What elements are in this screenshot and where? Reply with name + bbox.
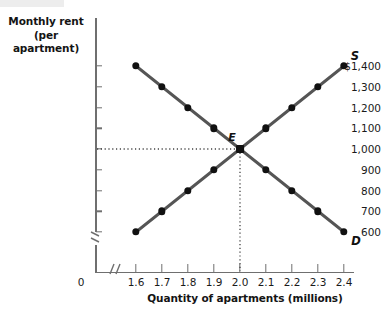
y-tick-mark: [96, 107, 102, 108]
supply-demand-chart-figure: Monthly rent (per apartment) $1,4001,300…: [0, 0, 381, 323]
y-axis-title: Monthly rent (per apartment): [0, 15, 92, 56]
y-tick-label: 700: [295, 205, 381, 217]
y-tick-mark: [96, 169, 102, 170]
x-tick-mark: [135, 264, 136, 272]
x-tick-label: 2.4: [324, 276, 364, 288]
y-tick-label: 1,100: [295, 122, 381, 134]
x-tick-mark: [213, 264, 214, 272]
equilibrium-point-marker: [236, 145, 244, 153]
x-axis-line: [95, 272, 354, 274]
y-axis-title-line1: Monthly rent: [0, 15, 92, 29]
y-tick-mark: [96, 86, 102, 87]
y-tick-label: 1,300: [295, 81, 381, 93]
data-point-d: [158, 83, 165, 90]
x-tick-mark: [291, 264, 292, 272]
equilibrium-guide-lines: [97, 149, 240, 271]
y-tick-label: $1,400: [295, 60, 381, 72]
data-point-s: [132, 228, 139, 235]
data-point-s: [158, 208, 165, 215]
y-tick-mark: [96, 231, 102, 232]
data-point-s: [184, 187, 191, 194]
data-point-d: [184, 104, 191, 111]
y-tick-label: 600: [295, 226, 381, 238]
y-tick-mark: [96, 211, 102, 212]
y-tick-mark: [96, 128, 102, 129]
y-tick-label: 1,000: [295, 143, 381, 155]
x-axis-title: Quantity of apartments (millions): [120, 292, 370, 304]
scan-artifact: [0, 0, 64, 7]
y-tick-label: 900: [295, 164, 381, 176]
x-tick-mark: [161, 264, 162, 272]
x-tick-mark: [187, 264, 188, 272]
data-point-d: [132, 62, 139, 69]
y-tick-mark: [96, 148, 102, 149]
equilibrium-label: E: [228, 131, 236, 144]
x-axis-break-icon: [106, 262, 124, 276]
y-tick-mark: [96, 190, 102, 191]
y-axis-line: [95, 18, 97, 232]
y-tick-label: 1,200: [295, 102, 381, 114]
x-tick-mark: [317, 264, 318, 272]
x-tick-mark: [239, 264, 240, 272]
data-point-s: [210, 166, 217, 173]
y-tick-mark: [96, 65, 102, 66]
data-point-s: [262, 125, 269, 132]
demand-curve-label: D: [351, 234, 361, 248]
data-point-d: [210, 125, 217, 132]
x-tick-mark: [343, 264, 344, 272]
supply-curve-label: S: [351, 49, 359, 63]
y-axis-line-lower-stub: [95, 245, 97, 273]
x-tick-mark: [265, 264, 266, 272]
y-axis-title-line2: (per apartment): [0, 29, 92, 56]
y-tick-label: 800: [295, 185, 381, 197]
data-point-d: [262, 166, 269, 173]
origin-label: 0: [72, 276, 90, 288]
